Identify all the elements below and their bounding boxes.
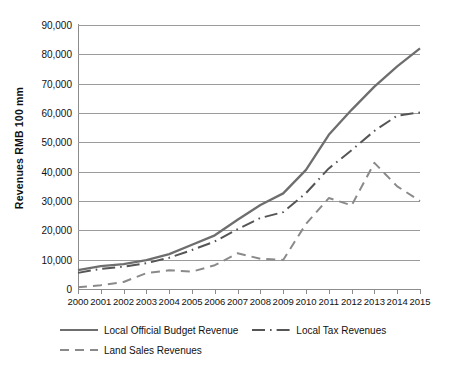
x-tick-label-2004: 2004 (159, 296, 180, 307)
x-tick-mark-2012 (352, 290, 353, 294)
x-tick-mark-2000 (78, 290, 79, 294)
plot-area (78, 25, 420, 289)
x-tick-mark-2011 (329, 290, 330, 294)
series-line-local-official-budget-revenue (78, 48, 420, 270)
x-tick-label-2002: 2002 (113, 296, 134, 307)
y-axis-tick-labels: 010,00020,00030,00040,00050,00060,00070,… (6, 25, 72, 289)
x-tick-mark-2007 (238, 290, 239, 294)
x-tick-label-2006: 2006 (204, 296, 225, 307)
y-tick-label-10000: 10,000 (10, 254, 72, 265)
x-tick-label-2013: 2013 (364, 296, 385, 307)
x-tick-mark-2014 (397, 290, 398, 294)
x-tick-mark-2003 (146, 290, 147, 294)
legend-swatch-dash-dot-icon (252, 325, 290, 335)
x-tick-label-2007: 2007 (227, 296, 248, 307)
legend-swatch-solid-icon (60, 325, 98, 335)
x-tick-label-2000: 2000 (67, 296, 88, 307)
series-container (78, 25, 420, 289)
chart-legend: Local Official Budget Revenue Local Tax … (60, 320, 440, 360)
y-tick-label-90000: 90,000 (10, 20, 72, 31)
x-tick-label-2012: 2012 (341, 296, 362, 307)
x-tick-label-2005: 2005 (181, 296, 202, 307)
x-tick-mark-2015 (420, 290, 421, 294)
y-tick-label-30000: 30,000 (10, 196, 72, 207)
x-tick-mark-2005 (192, 290, 193, 294)
chart-page: Revenues RMB 100 mm 010,00020,00030,0004… (0, 0, 451, 369)
x-tick-label-2014: 2014 (387, 296, 408, 307)
x-tick-label-2015: 2015 (409, 296, 430, 307)
x-tick-label-2011: 2011 (319, 296, 339, 307)
legend-row-1: Local Official Budget Revenue Local Tax … (60, 320, 440, 340)
x-tick-mark-2013 (374, 290, 375, 294)
x-tick-label-2008: 2008 (250, 296, 271, 307)
legend-row-2: Land Sales Revenues (60, 340, 440, 360)
legend-label-2: Land Sales Revenues (104, 345, 202, 356)
y-tick-label-80000: 80,000 (10, 49, 72, 60)
x-tick-mark-2001 (101, 290, 102, 294)
y-tick-label-0: 0 (10, 284, 72, 295)
x-tick-mark-2004 (169, 290, 170, 294)
legend-item-land-sales-revenues: Land Sales Revenues (60, 345, 202, 356)
series-line-land-sales-revenues (78, 163, 420, 287)
x-tick-label-2009: 2009 (273, 296, 294, 307)
x-tick-label-2010: 2010 (295, 296, 316, 307)
series-line-local-tax-revenues (78, 112, 420, 272)
x-tick-mark-2002 (124, 290, 125, 294)
legend-item-local-tax-revenues: Local Tax Revenues (252, 325, 386, 336)
legend-swatch-dashed-icon (60, 345, 98, 355)
y-tick-label-60000: 60,000 (10, 108, 72, 119)
y-tick-label-40000: 40,000 (10, 166, 72, 177)
legend-item-local-official-budget-revenue: Local Official Budget Revenue (60, 325, 238, 336)
x-tick-label-2003: 2003 (136, 296, 157, 307)
y-tick-label-70000: 70,000 (10, 78, 72, 89)
legend-label-1: Local Tax Revenues (296, 325, 386, 336)
x-tick-mark-2010 (306, 290, 307, 294)
x-tick-label-2001: 2001 (90, 296, 111, 307)
x-tick-mark-2009 (283, 290, 284, 294)
gridline-0 (78, 289, 420, 290)
y-tick-label-50000: 50,000 (10, 137, 72, 148)
x-tick-mark-2008 (260, 290, 261, 294)
y-tick-label-20000: 20,000 (10, 225, 72, 236)
x-tick-mark-2006 (215, 290, 216, 294)
legend-label-0: Local Official Budget Revenue (104, 325, 238, 336)
